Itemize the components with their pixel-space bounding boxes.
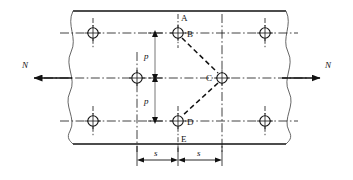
pitch-arrow-bottom <box>152 117 158 124</box>
point-label-c: C <box>206 73 212 83</box>
stagger-arrow-right-out <box>215 157 222 162</box>
figure-canvas: N N <box>0 0 353 180</box>
hole-bottom-left <box>85 113 101 129</box>
hole-top-right <box>257 25 273 41</box>
point-label-e: E <box>181 134 187 144</box>
point-label-b: B <box>187 29 193 39</box>
point-label-d: D <box>187 117 194 127</box>
stagger-arrow-right-in <box>178 157 185 162</box>
pitch-label-upper: p <box>143 51 149 61</box>
stagger-label-left: s <box>154 148 158 158</box>
point-label-a: A <box>181 13 188 23</box>
stagger-arrow-left-in <box>171 157 178 162</box>
stagger-label-right: s <box>197 148 201 158</box>
failure-path-bcd <box>182 38 218 116</box>
stagger-dimension <box>137 146 222 166</box>
hole-d <box>170 113 186 129</box>
pitch-label-lower: p <box>143 96 149 106</box>
failure-segment-cd <box>182 83 218 116</box>
rivet-holes <box>85 25 273 129</box>
row-centerlines <box>60 33 298 121</box>
hole-mid-left <box>129 70 145 86</box>
hole-top-left <box>85 25 101 41</box>
plate-joint-diagram: N N <box>0 0 353 180</box>
pitch-arrow-top <box>152 30 158 37</box>
force-label-left: N <box>21 60 29 70</box>
failure-segment-bc <box>182 38 218 73</box>
hole-bottom-right <box>257 113 273 129</box>
force-label-right: N <box>324 60 332 70</box>
pitch-dimension <box>148 30 163 124</box>
stagger-arrow-left-out <box>137 157 144 162</box>
